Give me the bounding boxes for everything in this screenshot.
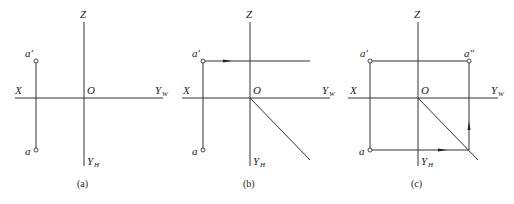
point-a-prime (368, 59, 372, 63)
point-a (368, 148, 372, 152)
arrow-right-icon (223, 60, 232, 63)
label-z: Z (246, 8, 253, 20)
label-a: a (359, 145, 365, 157)
45-degree-line (250, 98, 310, 160)
label-x: X (349, 84, 358, 96)
point-a-prime (201, 59, 205, 63)
point-a (201, 148, 205, 152)
panel-a: Z X O Y W Y H a′ a (a) (14, 8, 169, 190)
label-o: O (253, 84, 261, 96)
label-yh-sub: H (93, 161, 100, 169)
point-a-prime (34, 59, 38, 63)
label-x: X (14, 84, 23, 96)
point-a (34, 148, 38, 152)
label-z: Z (414, 8, 421, 20)
label-yh-sub: H (259, 161, 266, 169)
panel-b: Z X O Y W Y H a′ a (b) (182, 8, 336, 190)
point-a-double-prime (467, 59, 471, 63)
label-o: O (87, 84, 95, 96)
label-z: Z (80, 8, 87, 20)
label-a: a (192, 145, 198, 157)
label-a-prime: a′ (25, 47, 34, 59)
label-yw-sub: W (498, 90, 505, 98)
caption-c: (c) (411, 178, 422, 190)
label-yw-sub: W (162, 90, 169, 98)
label-o: O (421, 84, 429, 96)
label-yh-sub: H (427, 161, 434, 169)
projection-diagram: Z X O Y W Y H a′ a (a) Z X O Y W Y H a′ … (0, 0, 514, 204)
arrow-right-icon (438, 149, 447, 152)
arrow-up-icon (468, 121, 471, 130)
caption-b: (b) (243, 178, 255, 190)
label-yw-sub: W (329, 90, 336, 98)
panel-c: Z X O Y W Y H a′ a″ a (c) (348, 8, 505, 190)
label-a-double-prime: a″ (464, 47, 475, 59)
label-a-prime: a′ (360, 47, 369, 59)
label-a-prime: a′ (192, 47, 201, 59)
caption-a: (a) (77, 178, 88, 190)
label-x: X (182, 84, 191, 96)
label-a: a (25, 145, 31, 157)
